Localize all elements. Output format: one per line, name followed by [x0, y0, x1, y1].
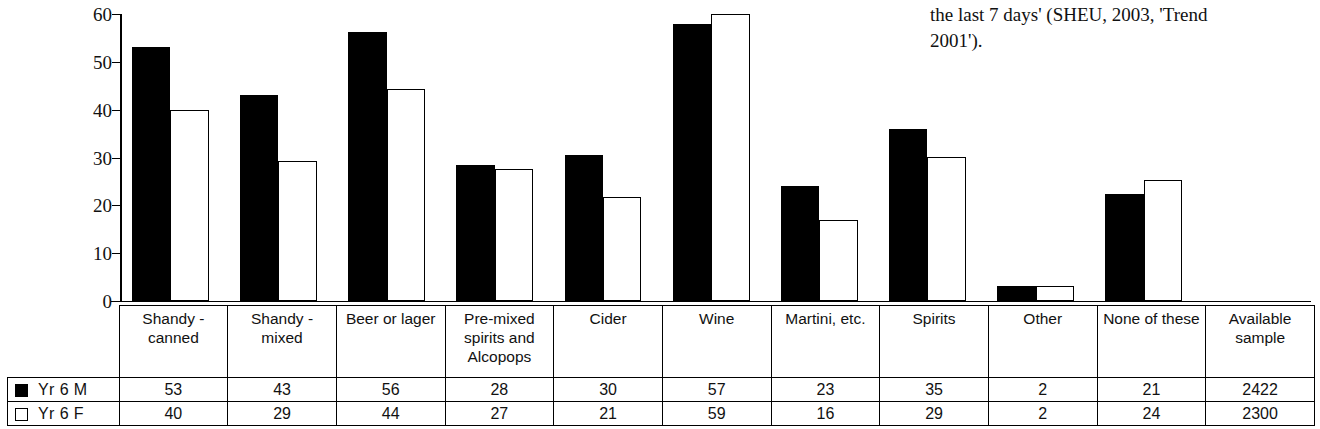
bar-chart: 0102030405060 [0, 0, 1320, 305]
category-label-line: sample [1206, 328, 1314, 347]
category-header-cell: Beer or lager [336, 306, 445, 378]
y-tick-label-40: 40 [60, 100, 112, 119]
data-cell: 56 [336, 378, 445, 402]
bar-yr6f [927, 157, 965, 301]
data-cell: 53 [119, 378, 228, 402]
category-label-line: Pre-mixed [446, 309, 554, 328]
data-cell: 57 [662, 378, 771, 402]
bar-group [770, 14, 878, 301]
data-cell: 44 [336, 402, 445, 426]
bar-yr6m [456, 165, 494, 301]
bar-yr6f [819, 220, 857, 301]
category-header-cell: Spirits [880, 306, 989, 378]
bar-yr6m [348, 32, 386, 301]
data-cell: 2 [988, 378, 1097, 402]
bar-yr6f [603, 197, 641, 301]
category-header-cell: Shandy -canned [119, 306, 228, 378]
data-cell: 2300 [1206, 402, 1315, 426]
category-header-cell: Cider [554, 306, 663, 378]
y-tick-label-30: 30 [60, 148, 112, 167]
category-label-line: Shandy - [120, 309, 228, 328]
bar-yr6f [711, 14, 749, 301]
category-label-line: Available [1206, 309, 1314, 328]
category-label-line: Other [989, 309, 1097, 328]
data-cell: 24 [1097, 402, 1206, 426]
category-header-cell: Martini, etc. [771, 306, 880, 378]
category-label-line: Alcopops [446, 347, 554, 366]
category-label-line: Beer or lager [337, 309, 445, 328]
bar-group [986, 14, 1094, 301]
category-header-cell: Availablesample [1206, 306, 1315, 378]
bar-group [878, 14, 986, 301]
bar-group [1203, 14, 1311, 301]
bar-yr6m [565, 155, 603, 301]
bar-group [229, 14, 337, 301]
category-label-line: spirits and [446, 328, 554, 347]
category-label-line: Cider [554, 309, 662, 328]
data-cell: 27 [445, 402, 554, 426]
category-label-line: None of these [1098, 309, 1206, 328]
bar-yr6f [1036, 286, 1074, 301]
data-cell: 23 [771, 378, 880, 402]
bar-series-area [121, 14, 1311, 301]
bar-group [1095, 14, 1203, 301]
data-cell: 30 [554, 378, 663, 402]
data-cell: 2 [988, 402, 1097, 426]
data-table: Shandy -cannedShandy -mixedBeer or lager… [7, 305, 1315, 426]
filled-square-icon [15, 384, 28, 397]
bar-yr6m [673, 24, 711, 301]
bar-yr6f [387, 89, 425, 301]
table-category-header-row: Shandy -cannedShandy -mixedBeer or lager… [8, 306, 1315, 378]
category-label-line: Martini, etc. [772, 309, 880, 328]
bar-group [446, 14, 554, 301]
data-cell: 28 [445, 378, 554, 402]
data-cell: 29 [880, 402, 989, 426]
category-header-spacer [8, 306, 120, 378]
bar-group [662, 14, 770, 301]
category-header-cell: None of these [1097, 306, 1206, 378]
data-cell: 16 [771, 402, 880, 426]
data-cell: 40 [119, 402, 228, 426]
data-cell: 29 [228, 402, 337, 426]
legend-item-yr6f[interactable]: Yr 6 F [8, 402, 120, 426]
data-cell: 21 [1097, 378, 1206, 402]
y-tick-label-10: 10 [60, 244, 112, 263]
table-row-yr6f: Yr 6 F 40294427215916292242300 [8, 402, 1315, 426]
bar-yr6f [495, 169, 533, 301]
category-header-cell: Wine [662, 306, 771, 378]
bar-yr6m [889, 129, 927, 301]
category-label-line: Shandy - [228, 309, 336, 328]
category-label-line: canned [120, 328, 228, 347]
category-header-cell: Pre-mixedspirits andAlcopops [445, 306, 554, 378]
y-tick-label-20: 20 [60, 196, 112, 215]
category-header-cell: Other [988, 306, 1097, 378]
bar-group [337, 14, 445, 301]
bar-yr6f [1144, 180, 1182, 301]
y-tick-label-60: 60 [60, 5, 112, 24]
legend-item-yr6m[interactable]: Yr 6 M [8, 378, 120, 402]
data-cell: 59 [662, 402, 771, 426]
bar-yr6m [997, 286, 1035, 301]
bar-yr6f [278, 161, 316, 301]
legend-label-yr6m: Yr 6 M [38, 381, 88, 399]
category-header-cell: Shandy -mixed [228, 306, 337, 378]
y-axis-tick-labels: 0102030405060 [60, 0, 112, 305]
hollow-square-icon [15, 408, 28, 421]
legend-label-yr6f: Yr 6 F [38, 405, 84, 423]
bar-group [554, 14, 662, 301]
table-row-yr6m: Yr 6 M 53435628305723352212422 [8, 378, 1315, 402]
category-label-line: Spirits [880, 309, 988, 328]
data-cell: 21 [554, 402, 663, 426]
data-cell: 43 [228, 378, 337, 402]
data-cell: 35 [880, 378, 989, 402]
category-label-line: Wine [663, 309, 771, 328]
bar-yr6m [781, 186, 819, 301]
bar-yr6f [170, 110, 208, 301]
data-cell: 2422 [1206, 378, 1315, 402]
bar-yr6m [1105, 194, 1143, 301]
bar-yr6m [132, 47, 170, 301]
y-tick-label-50: 50 [60, 52, 112, 71]
bar-group [121, 14, 229, 301]
category-label-line: mixed [228, 328, 336, 347]
bar-yr6m [240, 95, 278, 301]
